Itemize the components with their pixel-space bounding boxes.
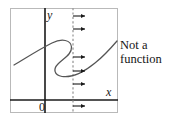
annotation-line-2: function (120, 52, 162, 66)
x-axis-label: x (106, 86, 111, 98)
annotation-line-1: Not a (120, 38, 162, 52)
y-axis-label: y (47, 9, 52, 21)
figure-frame (11, 9, 118, 113)
vertical-line-test-figure: y x 0 Not a function (0, 0, 175, 119)
not-a-function-annotation: Not a function (120, 38, 162, 66)
origin-label: 0 (39, 101, 45, 113)
